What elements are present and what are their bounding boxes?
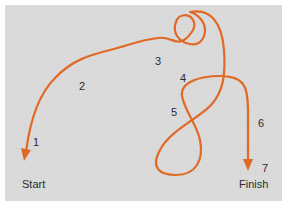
start-arrowhead-icon [21, 148, 31, 161]
step-label-7: 7 [262, 163, 268, 174]
finish-label: Finish [239, 179, 268, 190]
step-label-2: 2 [79, 81, 85, 92]
start-label: Start [22, 179, 45, 190]
finish-arrowhead-icon [243, 159, 253, 171]
step-label-6: 6 [258, 118, 264, 129]
step-label-1: 1 [33, 137, 39, 148]
step-label-5: 5 [171, 107, 177, 118]
step-label-4: 4 [180, 73, 186, 84]
route-path-line [26, 11, 248, 175]
step-label-3: 3 [155, 56, 161, 67]
